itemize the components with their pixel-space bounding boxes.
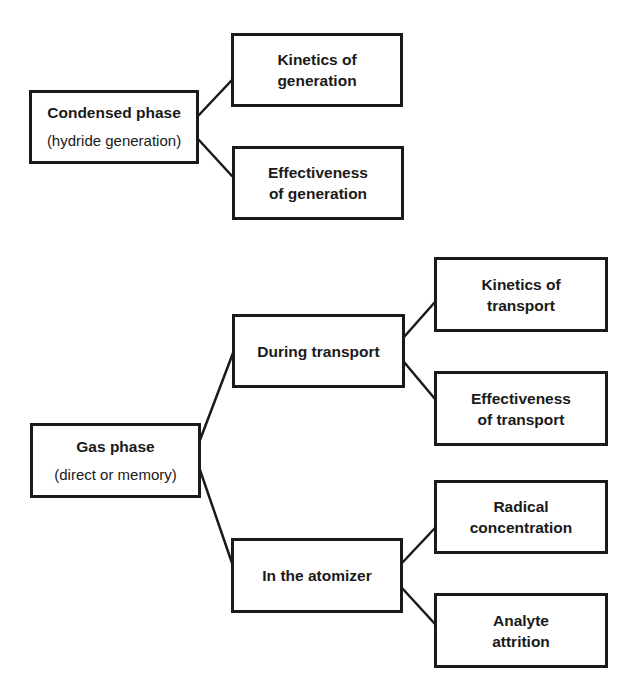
node-text-line: transport — [487, 295, 555, 316]
node-effectiveness-of-generation: Effectiveness of generation — [232, 146, 404, 220]
node-kinetics-of-transport: Kinetics of transport — [434, 257, 608, 332]
connector-atomizer-to-radical — [402, 528, 435, 563]
connector-condensed-to-kinetics — [198, 80, 232, 116]
node-during-transport: During transport — [232, 314, 405, 388]
connector-gas-to-atomizer — [200, 470, 232, 563]
node-condensed-phase: Condensed phase (hydride generation) — [29, 90, 199, 164]
node-text-line: Kinetics of — [277, 49, 356, 70]
node-label: In the atomizer — [262, 565, 371, 586]
node-analyte-attrition: Analyte attrition — [434, 593, 608, 668]
node-text-line: Radical — [493, 496, 548, 517]
node-text-line: Effectiveness — [268, 162, 368, 183]
node-text-line: Kinetics of — [481, 274, 560, 295]
node-subtitle: (hydride generation) — [47, 130, 181, 152]
connector-gas-to-transport — [200, 353, 233, 440]
connector-condensed-to-effectiveness — [198, 139, 232, 176]
node-text-line: concentration — [470, 517, 572, 538]
diagram-canvas: Condensed phase (hydride generation) Kin… — [0, 0, 640, 700]
node-text-line: attrition — [492, 631, 550, 652]
node-radical-concentration: Radical concentration — [434, 480, 608, 554]
connector-atomizer-to-attrition — [402, 588, 435, 624]
node-kinetics-of-generation: Kinetics of generation — [231, 33, 403, 107]
node-subtitle: (direct or memory) — [54, 464, 177, 486]
node-in-the-atomizer: In the atomizer — [231, 538, 403, 613]
node-text-line: Analyte — [493, 610, 549, 631]
connector-transport-to-effectiveness — [404, 362, 435, 399]
node-text-line: of transport — [478, 409, 565, 430]
node-title: Gas phase — [76, 436, 154, 458]
node-effectiveness-of-transport: Effectiveness of transport — [434, 371, 608, 446]
node-gas-phase: Gas phase (direct or memory) — [30, 423, 201, 498]
connector-transport-to-kinetics — [404, 302, 435, 337]
node-label: During transport — [257, 341, 379, 362]
node-text-line: generation — [277, 70, 356, 91]
node-title: Condensed phase — [47, 102, 181, 124]
node-text-line: Effectiveness — [471, 388, 571, 409]
node-text-line: of generation — [269, 183, 367, 204]
